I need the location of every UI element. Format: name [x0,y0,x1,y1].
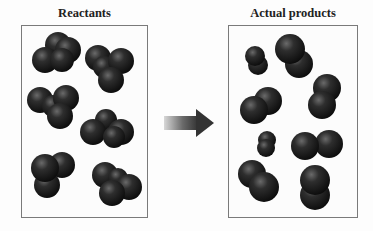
reactant-molecule [80,109,134,148]
product-molecule [238,160,279,202]
product-molecule [308,74,341,119]
reaction-arrow-icon [164,109,214,137]
molecule-diagram [0,0,373,231]
reactant-molecule [27,85,79,129]
reactant-molecule [32,32,81,73]
product-molecule [275,34,313,78]
product-molecule [240,87,282,124]
product-molecule [245,46,268,75]
product-molecule [300,165,330,210]
product-molecule [291,130,343,160]
reactant-molecule [85,45,134,93]
product-molecule [257,131,276,157]
reactant-molecule [92,162,142,206]
reactant-molecule [31,152,75,198]
